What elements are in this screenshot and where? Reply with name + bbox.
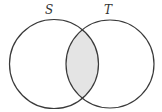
venn-diagram: S T [0, 0, 162, 112]
set-s-label: S [45, 3, 53, 17]
set-t-label: T [104, 3, 113, 17]
